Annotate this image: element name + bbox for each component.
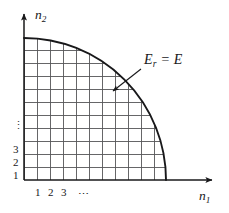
- y-axis-label: n2: [35, 8, 46, 24]
- x-tick-label-1: 1: [35, 187, 41, 198]
- x-tick-label-2: 2: [48, 187, 54, 198]
- y-tick-label-3: 3: [13, 144, 19, 155]
- energy-lattice-figure: n2 n1 Er = E 1 2 3 ⋯ 1 2 3 ⋮: [0, 0, 229, 213]
- y-axis-label-sub: 2: [42, 14, 47, 24]
- energy-curve-label-main: E: [144, 52, 153, 67]
- energy-curve-label-rest: = E: [160, 52, 182, 67]
- y-axis-label-text: n: [35, 7, 42, 22]
- figure-canvas: [0, 0, 229, 213]
- y-tick-ellipsis: ⋮: [13, 122, 22, 129]
- x-axis-label-text: n: [199, 188, 206, 203]
- x-axis-label: n1: [199, 189, 210, 205]
- x-axis-label-sub: 1: [206, 195, 211, 205]
- y-tick-label-2: 2: [13, 157, 19, 168]
- x-tick-ellipsis: ⋯: [78, 189, 90, 200]
- energy-curve-label: Er = E: [144, 53, 182, 69]
- y-tick-label-1: 1: [13, 170, 19, 181]
- x-tick-label-3: 3: [61, 187, 67, 198]
